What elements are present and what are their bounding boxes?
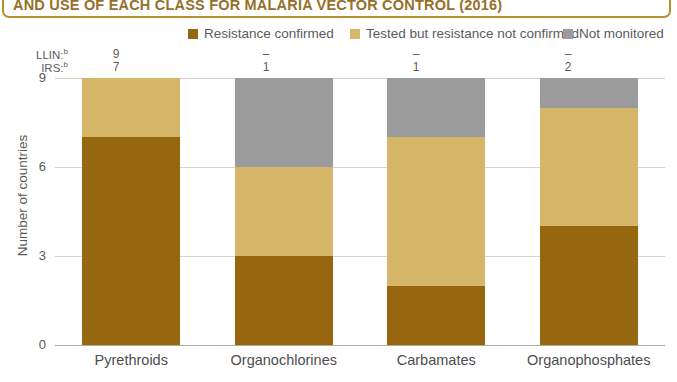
annotation-superscript: b	[64, 60, 68, 69]
chart-legend: Resistance confirmed Tested but resistan…	[0, 25, 677, 45]
bar-segment[interactable]	[235, 78, 333, 167]
legend-swatch-icon	[188, 29, 198, 39]
bar-group[interactable]	[387, 78, 485, 345]
bar-segment[interactable]	[540, 108, 638, 227]
bar-segment[interactable]	[540, 78, 638, 108]
chart-title-box: AND USE OF EACH CLASS FOR MALARIA VECTOR…	[2, 0, 671, 18]
annotation-value: 7	[96, 60, 136, 74]
annotation-value: 1	[246, 60, 286, 74]
annotation-row-irs: IRS:b 7 1 1 2	[0, 60, 677, 73]
x-axis-line	[55, 345, 665, 346]
bar-segment[interactable]	[235, 167, 333, 256]
bar-segment[interactable]	[387, 78, 485, 137]
annotation-row-llin: LLIN:b 9 – – –	[0, 47, 677, 60]
annotation-value: 1	[396, 60, 436, 74]
bar-group[interactable]	[235, 78, 333, 345]
bar-segment[interactable]	[82, 78, 180, 137]
annotation-row-key: LLIN:b	[0, 47, 68, 61]
chart-plot-area: Number of countries 0369 PyrethroidsOrga…	[0, 78, 677, 382]
x-axis-category-label: Organophosphates	[494, 352, 677, 368]
bar-stack[interactable]	[235, 78, 333, 345]
y-axis-tick-label: 0	[26, 338, 46, 351]
annotation-value: –	[246, 47, 286, 61]
bar-segment[interactable]	[235, 256, 333, 345]
annotation-value: –	[548, 47, 588, 61]
bar-group[interactable]	[82, 78, 180, 345]
legend-item-tested-not-confirmed: Tested but resistance not confirmed	[350, 25, 579, 43]
bar-segment[interactable]	[387, 286, 485, 345]
bar-stack[interactable]	[82, 78, 180, 345]
bar-stack[interactable]	[540, 78, 638, 345]
legend-item-label: Resistance confirmed	[204, 27, 334, 41]
bar-segment[interactable]	[82, 137, 180, 345]
bar-series-container	[55, 78, 665, 345]
annotation-rows: LLIN:b 9 – – – IRS:b 7 1 1 2	[0, 47, 677, 75]
legend-swatch-icon	[563, 29, 573, 39]
legend-swatch-icon	[350, 29, 360, 39]
legend-item-label: Not monitored	[579, 27, 664, 41]
annotation-value: 2	[548, 60, 588, 74]
bar-group[interactable]	[540, 78, 638, 345]
bar-segment[interactable]	[387, 137, 485, 285]
legend-item-label: Tested but resistance not confirmed	[366, 27, 579, 41]
y-axis-tick-label: 9	[26, 71, 46, 84]
page-title: AND USE OF EACH CLASS FOR MALARIA VECTOR…	[13, 0, 502, 13]
legend-item-resistance-confirmed: Resistance confirmed	[188, 25, 334, 43]
annotation-value: 9	[96, 47, 136, 61]
y-axis-title: Number of countries	[15, 96, 30, 296]
bar-segment[interactable]	[540, 226, 638, 345]
annotation-value: –	[396, 47, 436, 61]
y-axis-tick-label: 3	[26, 249, 46, 262]
annotation-superscript: b	[64, 47, 68, 56]
y-axis-tick-label: 6	[26, 160, 46, 173]
bar-stack[interactable]	[387, 78, 485, 345]
legend-item-not-monitored: Not monitored	[563, 25, 664, 43]
